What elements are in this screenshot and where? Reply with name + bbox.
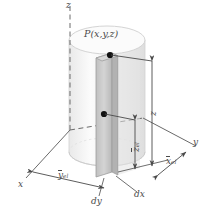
point-P-label: P(x,y,z) [84, 29, 118, 39]
z-el-dimension-label: zel [132, 142, 141, 152]
y-el-dimension-line [33, 172, 104, 188]
z-dimension-label: z [149, 111, 158, 116]
y-axis-line [143, 118, 196, 146]
z-axis-label: z [66, 1, 71, 10]
y-el-dimension-label: yel [58, 171, 68, 180]
cylinder-centroid-figure: z P(x,y,z) z zel yel xel x y dy dx [0, 0, 205, 217]
x-el-base: x [166, 157, 171, 166]
y-el-base: y [58, 171, 63, 180]
x-el-sub: el [171, 159, 176, 165]
element-side-face [112, 53, 118, 175]
element-shadow-plane [118, 50, 140, 175]
y-el-sub: el [63, 173, 68, 179]
x-axis-label: x [18, 180, 23, 189]
y-axis-label: y [193, 138, 198, 147]
z-el-base: z [132, 147, 141, 152]
dx-label: dx [134, 190, 145, 199]
dy-label: dy [91, 197, 102, 206]
x-el-dimension-label: xel [166, 157, 176, 166]
